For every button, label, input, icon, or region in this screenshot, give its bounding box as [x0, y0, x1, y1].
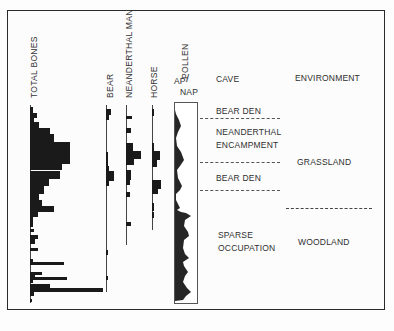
divider-1 — [200, 118, 280, 119]
header-cave: CAVE — [216, 73, 239, 86]
zone-bear-den-1: BEAR DEN — [216, 105, 261, 118]
divider-2 — [200, 162, 280, 163]
zone-sparse-1: SPARSE — [218, 229, 253, 242]
zone-neanderthal-2: ENCAMPMENT — [216, 139, 278, 152]
header-environment: ENVIRONMENT — [295, 72, 360, 85]
divider-3 — [200, 190, 280, 191]
env-woodland: WOODLAND — [298, 236, 350, 249]
zone-neanderthal-1: NEANDERTHAL — [216, 126, 281, 139]
environment-divider — [286, 208, 372, 209]
zone-sparse-2: OCCUPATION — [218, 242, 275, 255]
env-grassland: GRASSLAND — [297, 156, 351, 169]
zone-bear-den-2: BEAR DEN — [216, 172, 261, 185]
